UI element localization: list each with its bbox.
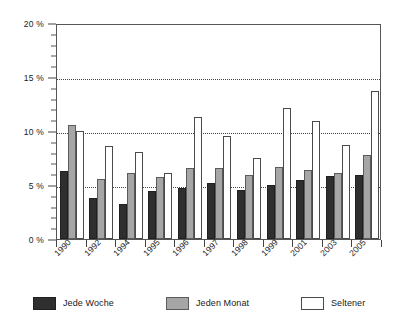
bar bbox=[135, 152, 143, 239]
bar bbox=[245, 175, 253, 239]
bar-group-2001 bbox=[293, 25, 323, 239]
dark-swatch-icon bbox=[33, 297, 56, 310]
bar bbox=[148, 191, 156, 239]
bar-group-1992 bbox=[87, 25, 117, 239]
bar bbox=[156, 177, 164, 239]
chart-legend: Jede Woche Jeden Monat Seltener bbox=[33, 292, 373, 314]
bar bbox=[97, 179, 105, 239]
bar bbox=[363, 155, 371, 239]
y-axis: 0 %5 %10 %15 %20 % bbox=[0, 0, 56, 250]
bar bbox=[283, 108, 291, 239]
bar bbox=[207, 183, 215, 239]
y-axis-tick-label: 0 % bbox=[29, 235, 44, 245]
bar bbox=[326, 176, 334, 239]
bar-group-2003 bbox=[323, 25, 353, 239]
bar bbox=[164, 173, 172, 239]
bar bbox=[105, 146, 113, 239]
y-axis-tick-label: 20 % bbox=[24, 19, 44, 29]
bar bbox=[342, 145, 350, 239]
bar-group-2005 bbox=[352, 25, 382, 239]
y-axis-tick bbox=[48, 24, 56, 25]
bar bbox=[194, 117, 202, 239]
x-axis-tick bbox=[381, 240, 382, 247]
bar-group-1996 bbox=[175, 25, 205, 239]
y-axis-tick bbox=[48, 132, 56, 133]
bar bbox=[178, 188, 186, 239]
y-axis-tick bbox=[48, 78, 56, 79]
bar-group-1998 bbox=[234, 25, 264, 239]
bar bbox=[215, 168, 223, 239]
bar-group-1990 bbox=[57, 25, 87, 239]
bar bbox=[186, 168, 194, 239]
y-axis-tick bbox=[48, 186, 56, 187]
legend-item-seltener: Seltener bbox=[301, 297, 365, 310]
bar bbox=[253, 158, 261, 239]
bar bbox=[371, 91, 379, 239]
y-axis-tick bbox=[48, 240, 56, 241]
bar bbox=[60, 171, 68, 239]
bar bbox=[312, 121, 320, 239]
bar bbox=[127, 173, 135, 239]
bar bbox=[296, 180, 304, 239]
gray-swatch-icon bbox=[166, 297, 189, 310]
bar-chart-figure: 0 %5 %10 %15 %20 % Jede Woche Jeden Mona… bbox=[0, 0, 393, 323]
bar bbox=[89, 198, 97, 239]
bar bbox=[68, 125, 76, 239]
bar bbox=[304, 170, 312, 239]
bar bbox=[275, 167, 283, 239]
bar bbox=[76, 131, 84, 239]
legend-label: Seltener bbox=[331, 298, 365, 308]
y-axis-tick-label: 15 % bbox=[24, 73, 44, 83]
legend-label: Jede Woche bbox=[63, 298, 114, 308]
bar bbox=[119, 204, 127, 239]
bar bbox=[237, 190, 245, 239]
y-axis-tick-label: 10 % bbox=[24, 127, 44, 137]
legend-label: Jeden Monat bbox=[196, 298, 249, 308]
legend-item-jede-woche: Jede Woche bbox=[33, 297, 166, 310]
legend-item-jeden-monat: Jeden Monat bbox=[166, 297, 301, 310]
plot-area bbox=[56, 24, 381, 240]
bar bbox=[355, 175, 363, 239]
bar bbox=[223, 136, 231, 239]
bar-group-1997 bbox=[205, 25, 235, 239]
bar-group-1994 bbox=[116, 25, 146, 239]
white-swatch-icon bbox=[301, 297, 324, 310]
bar-group-1995 bbox=[146, 25, 176, 239]
bar-group-1999 bbox=[264, 25, 294, 239]
bar bbox=[334, 173, 342, 239]
bar bbox=[267, 185, 275, 239]
y-axis-tick-label: 5 % bbox=[29, 181, 44, 191]
